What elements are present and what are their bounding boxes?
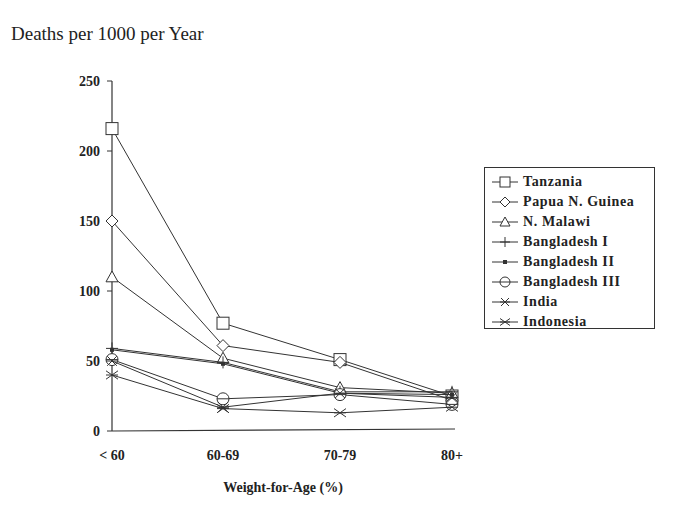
series-tanzania: [106, 123, 458, 402]
data-point-marker: [334, 389, 346, 401]
legend-label: Papua N. Guinea: [523, 194, 634, 210]
legend-label: Bangladesh III: [523, 274, 621, 290]
legend-item: Tanzania: [491, 172, 654, 192]
data-point-marker: [221, 362, 225, 366]
y-tick-label: 150: [79, 214, 100, 229]
legend-item: Indonesia: [491, 312, 654, 332]
data-point-marker: [106, 123, 118, 135]
diamond-marker-icon: [491, 194, 519, 210]
legend-item: Bangladesh I: [491, 232, 654, 252]
legend-label: Indonesia: [523, 314, 587, 330]
y-tick-label: 100: [79, 284, 100, 299]
legend-item: Bangladesh II: [491, 252, 654, 272]
x-axis-title: Weight-for-Age (%): [223, 480, 343, 496]
x-tick-label: < 60: [99, 448, 124, 463]
legend-item: India: [491, 292, 654, 312]
y-tick-label: 50: [86, 354, 100, 369]
legend-label: Bangladesh I: [523, 234, 608, 250]
chart-legend: TanzaniaPapua N. GuineaN. MalawiBanglade…: [484, 167, 655, 329]
y-tick-label: 250: [79, 74, 100, 89]
circle-marker-icon: [491, 274, 519, 290]
data-point-marker: [217, 404, 229, 412]
x-tick-label: 60-69: [207, 448, 240, 463]
square-marker-icon: [491, 174, 519, 190]
legend-item: N. Malawi: [491, 212, 654, 232]
legend-label: India: [523, 294, 558, 310]
series-bangladesh-iii: [106, 354, 458, 411]
data-point-marker: [217, 317, 229, 329]
data-point-marker: [334, 409, 346, 417]
y-tick-label: 200: [79, 144, 100, 159]
data-point-marker: [106, 354, 118, 366]
legend-label: N. Malawi: [523, 214, 591, 230]
asterisk-marker-icon: [491, 294, 519, 310]
legend-item: Papua N. Guinea: [491, 192, 654, 212]
legend-item: Bangladesh III: [491, 272, 654, 292]
x-tick-label: 80+: [441, 448, 463, 463]
x-marker-icon: [491, 314, 519, 330]
plus-marker-icon: [491, 234, 519, 250]
data-point-marker: [106, 271, 118, 282]
y-tick-label: 0: [93, 424, 100, 439]
x-tick-label: 70-79: [324, 448, 357, 463]
x-axis: [112, 429, 455, 431]
legend-label: Bangladesh II: [523, 254, 614, 270]
data-point-marker: [110, 348, 114, 352]
dot-marker-icon: [491, 254, 519, 270]
legend-label: Tanzania: [523, 174, 583, 190]
triangle-marker-icon: [491, 214, 519, 230]
